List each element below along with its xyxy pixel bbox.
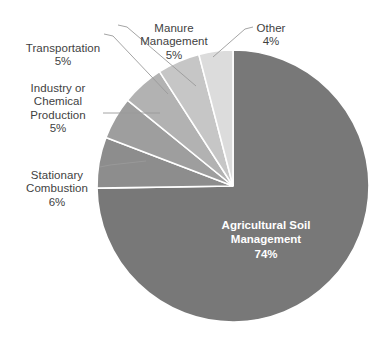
slice-label-stationary-percent: 6%: [2, 196, 112, 210]
slice-label-transportation-percent: 5%: [10, 55, 116, 69]
slice-label-stationary-combustion: Stationary Combustion 6%: [2, 155, 112, 223]
slice-label-manure-management: Manure Management 5%: [120, 8, 228, 76]
slice-label-industry-or-chemical-production: Industry or Chemical Production 5%: [4, 68, 112, 149]
slice-label-other: Other 4%: [238, 8, 304, 62]
pie-chart: Transportation 5% Industry or Chemical P…: [0, 0, 384, 344]
slice-label-industry-name: Industry or Chemical Production: [30, 82, 85, 121]
slice-label-asm-name: Agricultural Soil Management: [222, 219, 311, 246]
slice-label-transportation-name: Transportation: [26, 42, 100, 54]
slice-label-stationary-name: Stationary Combustion: [26, 169, 88, 195]
slice-label-manure-percent: 5%: [120, 49, 228, 63]
slice-label-agricultural-soil-management: Agricultural Soil Management 74%: [193, 203, 339, 276]
slice-label-other-percent: 4%: [238, 35, 304, 49]
slice-label-asm-percent: 74%: [193, 247, 339, 262]
slice-label-other-name: Other: [256, 22, 285, 34]
slice-label-manure-name: Manure Management: [140, 22, 208, 48]
slice-label-industry-percent: 5%: [4, 122, 112, 136]
